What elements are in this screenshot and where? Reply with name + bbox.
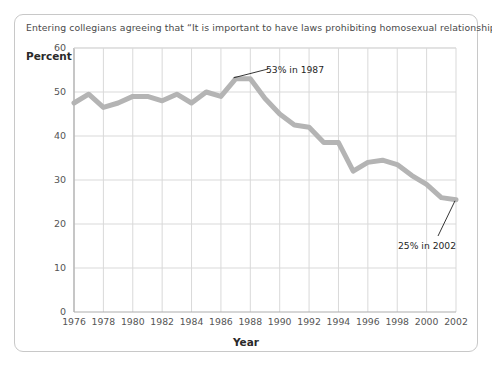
y-tick-label: 30 xyxy=(40,174,66,185)
y-tick-label: 40 xyxy=(40,130,66,141)
chart-figure: Entering collegians agreeing that “It is… xyxy=(0,0,492,366)
gridlines xyxy=(74,48,456,312)
x-tick-label: 2002 xyxy=(436,316,476,327)
x-axis-label: Year xyxy=(0,336,492,348)
end-callout-label: 25% in 2002 xyxy=(398,240,456,251)
y-tick-label: 50 xyxy=(40,86,66,97)
y-tick-label: 60 xyxy=(40,42,66,53)
y-tick-label: 10 xyxy=(40,262,66,273)
y-tick-label: 20 xyxy=(40,218,66,229)
plot-area xyxy=(0,0,492,366)
peak-callout-label: 53% in 1987 xyxy=(266,64,324,75)
data-series-line xyxy=(74,79,456,200)
